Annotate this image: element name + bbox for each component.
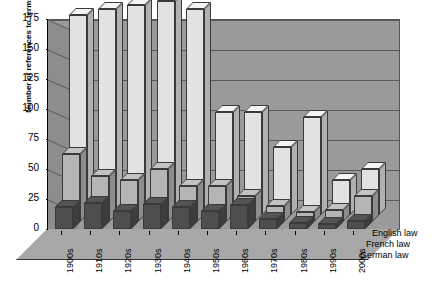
bar-face [303, 117, 321, 215]
y-tick-label: 50 [5, 164, 39, 172]
x-tick-mark [353, 231, 354, 235]
x-tick-mark [61, 231, 62, 235]
bar-german-law-1940s[interactable] [172, 207, 190, 229]
y-tick-label: 150 [5, 44, 39, 52]
bar-face [318, 224, 336, 229]
bar-german-law-1990s[interactable] [318, 224, 336, 229]
chart-3d-bar: Number of references to terms 1751501251… [0, 0, 437, 302]
bar-face [259, 219, 277, 229]
bar-german-law-1930s[interactable] [143, 204, 161, 229]
bar-side [291, 140, 298, 215]
legend-item-english-law[interactable]: English law [372, 228, 418, 238]
x-tick-mark [236, 231, 237, 235]
bar-face [55, 207, 73, 229]
bar-german-law-1920s[interactable] [113, 211, 131, 229]
x-tick-label-1910s: 1910s [94, 248, 104, 273]
y-tick-label: 75 [5, 134, 39, 142]
y-tick-label: 0 [5, 224, 39, 232]
y-tick-label: 25 [5, 194, 39, 202]
y-tick-label: 175 [5, 14, 39, 22]
bar-side [321, 110, 328, 215]
bar-face [230, 205, 248, 229]
legend-item-french-law[interactable]: French law [366, 239, 410, 249]
bar-german-law-1980s[interactable] [289, 223, 307, 229]
bar-face [201, 211, 219, 229]
bar-english-law-1980s[interactable] [303, 117, 321, 215]
x-tick-mark [324, 231, 325, 235]
y-tick-label: 100 [5, 104, 39, 112]
x-tick-mark [295, 231, 296, 235]
legend-item-german-law[interactable]: German law [360, 250, 409, 260]
y-axis-line [47, 19, 48, 230]
x-tick-label-1950s: 1950s [211, 248, 221, 273]
bar-german-law-1960s[interactable] [230, 205, 248, 229]
bar-german-law-1950s[interactable] [201, 211, 219, 229]
x-tick-label-1900s: 1900s [65, 248, 75, 273]
x-tick-label-1960s: 1960s [240, 248, 250, 273]
x-tick-mark [119, 231, 120, 235]
bar-german-law-1970s[interactable] [259, 219, 277, 229]
x-tick-mark [149, 231, 150, 235]
bar-german-law-2000s[interactable] [347, 221, 365, 229]
x-tick-mark [265, 231, 266, 235]
bar-side [379, 162, 386, 215]
x-tick-mark [90, 231, 91, 235]
x-tick-mark [178, 231, 179, 235]
bar-face [289, 223, 307, 229]
bar-face [347, 221, 365, 229]
bar-face [113, 211, 131, 229]
x-tick-label-1980s: 1980s [299, 248, 309, 273]
bar-face [84, 203, 102, 229]
x-tick-label-1940s: 1940s [182, 248, 192, 273]
x-tick-label-1920s: 1920s [123, 248, 133, 273]
x-tick-label-1930s: 1930s [153, 248, 163, 273]
bar-face [172, 207, 190, 229]
bar-german-law-1900s[interactable] [55, 207, 73, 229]
bar-face [143, 204, 161, 229]
bar-german-law-1910s[interactable] [84, 203, 102, 229]
x-tick-label-1970s: 1970s [269, 248, 279, 273]
x-tick-label-1990s: 1990s [328, 248, 338, 273]
bar-side [262, 105, 269, 215]
x-tick-mark [207, 231, 208, 235]
y-tick-label: 125 [5, 74, 39, 82]
